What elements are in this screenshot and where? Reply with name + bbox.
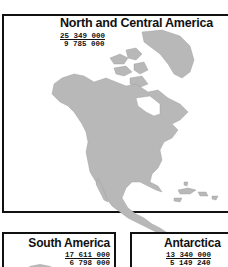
area-sq-mi: 5 149 240 bbox=[166, 259, 211, 267]
north-america-map bbox=[2, 2, 228, 242]
panel-title: South America bbox=[28, 236, 110, 250]
antarctica-panel: Antarctica 13 340 000 5 149 240 bbox=[130, 232, 228, 267]
south-america-map bbox=[14, 258, 74, 267]
south-america-panel: South America 17 611 000 6 798 000 bbox=[2, 232, 116, 267]
area-sq-km: 13 340 000 bbox=[166, 251, 211, 259]
panel-title: Antarctica bbox=[164, 236, 221, 250]
area-figures: 13 340 000 5 149 240 bbox=[166, 251, 211, 267]
north-central-america-panel: North and Central America 25 349 000 9 7… bbox=[2, 14, 228, 213]
